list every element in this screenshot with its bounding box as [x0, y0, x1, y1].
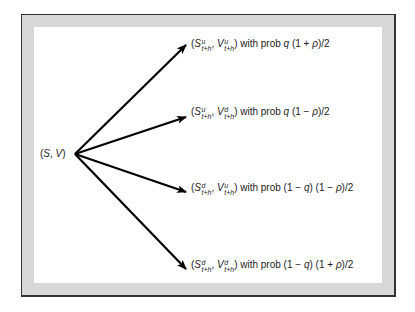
v-symbol: V: [217, 38, 224, 49]
v-scripts: ut+h: [224, 182, 234, 196]
prob-expression: (1 − ρ)/2: [292, 106, 330, 117]
prob-expression: (1 − ρ)/2: [316, 182, 354, 193]
with-prob-text: with prob: [240, 106, 281, 117]
s-scripts: ut+h: [202, 38, 212, 52]
s-superscript: u: [202, 38, 212, 45]
branch-label-du: (Sdt+h, Vut+h) with prob (1 − q) (1 − ρ)…: [191, 182, 353, 196]
v-subscript: t+h: [224, 266, 234, 273]
branch-label-dd: (Sdt+h, Vdt+h) with prob (1 − q) (1 + ρ)…: [191, 259, 353, 273]
s-scripts: dt+h: [202, 259, 212, 273]
prob-expression: (1 + ρ)/2: [292, 38, 330, 49]
s-subscript: t+h: [202, 189, 212, 196]
v-superscript: d: [224, 259, 234, 266]
origin-v: V: [56, 148, 63, 159]
v-subscript: t+h: [224, 189, 234, 196]
s-scripts: ut+h: [202, 106, 212, 120]
branch-label-ud: (Sut+h, Vdt+h) with prob q (1 − ρ)/2: [191, 106, 330, 120]
prob-expression: (1 + ρ)/2: [316, 259, 354, 270]
branch-arrow-dd: [75, 154, 186, 269]
origin-node-label: (S, V): [40, 148, 66, 160]
branch-label-uu: (Sut+h, Vut+h) with prob q (1 + ρ)/2: [191, 38, 330, 52]
prob-prefix: q: [284, 38, 290, 49]
s-symbol: S: [194, 106, 201, 117]
v-symbol: V: [217, 259, 224, 270]
v-scripts: ut+h: [224, 38, 234, 52]
prob-prefix: (1 − q): [284, 259, 313, 270]
s-superscript: u: [202, 106, 212, 113]
v-superscript: u: [224, 38, 234, 45]
prob-prefix: q: [284, 106, 290, 117]
diagram-canvas: (S, V) (Sut+h, Vut+h) with prob q (1 + ρ…: [0, 0, 415, 312]
s-subscript: t+h: [202, 45, 212, 52]
s-symbol: S: [194, 259, 201, 270]
branch-arrow-ud: [75, 117, 186, 154]
s-superscript: d: [202, 182, 212, 189]
v-scripts: dt+h: [224, 259, 234, 273]
branch-arrow-du: [75, 154, 186, 192]
s-subscript: t+h: [202, 113, 212, 120]
with-prob-text: with prob: [240, 38, 281, 49]
s-symbol: S: [194, 38, 201, 49]
v-scripts: dt+h: [224, 106, 234, 120]
s-superscript: d: [202, 259, 212, 266]
v-superscript: d: [224, 106, 234, 113]
v-subscript: t+h: [224, 45, 234, 52]
s-symbol: S: [194, 182, 201, 193]
s-subscript: t+h: [202, 266, 212, 273]
prob-prefix: (1 − q): [284, 182, 313, 193]
branch-arrow-uu: [75, 45, 186, 154]
v-subscript: t+h: [224, 113, 234, 120]
with-prob-text: with prob: [240, 259, 281, 270]
with-prob-text: with prob: [240, 182, 281, 193]
v-superscript: u: [224, 182, 234, 189]
v-symbol: V: [217, 182, 224, 193]
v-symbol: V: [217, 106, 224, 117]
s-scripts: dt+h: [202, 182, 212, 196]
origin-s: S: [43, 148, 50, 159]
